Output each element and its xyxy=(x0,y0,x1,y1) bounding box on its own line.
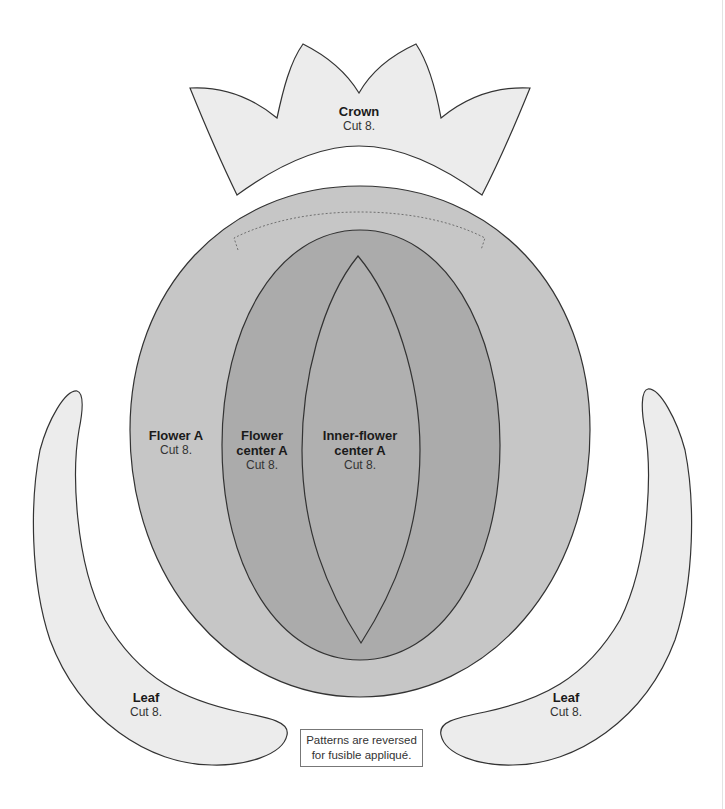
flower-center-title-2: center A xyxy=(227,443,297,458)
leaf-right-title: Leaf xyxy=(541,690,591,705)
flower-center-cut: Cut 8. xyxy=(227,458,297,473)
leaf-right-cut: Cut 8. xyxy=(541,705,591,720)
reversed-note-box: Patterns are reversed for fusible appliq… xyxy=(300,729,423,767)
leaf-left-cut: Cut 8. xyxy=(121,705,171,720)
flower-center-label: Flower center A Cut 8. xyxy=(227,428,297,473)
crown-label: Crown Cut 8. xyxy=(319,104,399,134)
note-line-2: for fusible appliqué. xyxy=(301,748,422,763)
leaf-right-label: Leaf Cut 8. xyxy=(541,690,591,720)
inner-flower-center-cut: Cut 8. xyxy=(310,458,410,473)
crown-title: Crown xyxy=(319,104,399,119)
flower-center-title-1: Flower xyxy=(227,428,297,443)
inner-flower-center-title-1: Inner-flower xyxy=(310,428,410,443)
flower-a-label: Flower A Cut 8. xyxy=(136,428,216,458)
note-line-1: Patterns are reversed xyxy=(301,733,422,748)
inner-flower-center-label: Inner-flower center A Cut 8. xyxy=(310,428,410,473)
page-edge-divider xyxy=(722,0,723,809)
inner-flower-center-title-2: center A xyxy=(310,443,410,458)
flower-a-cut: Cut 8. xyxy=(136,443,216,458)
leaf-left-label: Leaf Cut 8. xyxy=(121,690,171,720)
leaf-left-title: Leaf xyxy=(121,690,171,705)
flower-a-title: Flower A xyxy=(136,428,216,443)
crown-cut: Cut 8. xyxy=(319,119,399,134)
